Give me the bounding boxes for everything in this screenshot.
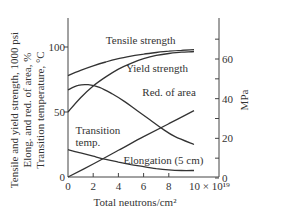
series-label: Tensile strength bbox=[106, 34, 176, 46]
x-tick-label: 8 bbox=[166, 180, 172, 192]
x-tick-label: 4 bbox=[116, 180, 122, 192]
y-right-tick-label: 0 bbox=[222, 172, 228, 184]
y-right-tick-label: 40 bbox=[222, 93, 234, 105]
series-label: Red. of area bbox=[142, 86, 196, 98]
series-label: Transition bbox=[76, 124, 121, 136]
series-label: Yield strength bbox=[126, 62, 189, 74]
y-axis-left-title-line: Tensile and yield strength, 1000 psi bbox=[8, 32, 20, 188]
chart: 0246810 × 10¹⁹0501000204060Tensile stren… bbox=[0, 0, 290, 214]
y-axis-right-title: MPa bbox=[238, 89, 250, 110]
y-axis-left-title-line: Elong. and red. of area, % bbox=[21, 53, 33, 168]
series-label: Elongation (5 cm) bbox=[123, 154, 203, 167]
y-right-tick-label: 60 bbox=[222, 53, 234, 65]
y-axis-left-title-line: Transition temperature, °C bbox=[34, 51, 46, 168]
x-axis-title: Total neutrons/cm² bbox=[94, 196, 178, 208]
y-left-tick-label: 100 bbox=[49, 41, 66, 53]
y-left-tick-label: 0 bbox=[60, 171, 66, 183]
x-tick-label: 6 bbox=[141, 180, 147, 192]
x-tick-label: 0 bbox=[65, 180, 71, 192]
y-right-tick-label: 20 bbox=[222, 132, 234, 144]
y-left-tick-label: 50 bbox=[54, 106, 66, 118]
series-label: temp. bbox=[76, 136, 101, 148]
series-yield-strength bbox=[68, 52, 194, 113]
x-tick-label: 2 bbox=[90, 180, 96, 192]
plot-area: 0246810 × 10¹⁹0501000204060Tensile stren… bbox=[8, 18, 250, 208]
